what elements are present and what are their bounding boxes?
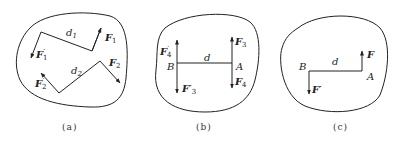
label-A: A: [366, 71, 374, 82]
svg-text:F2′: F2′: [34, 77, 47, 91]
label-d: d: [332, 56, 338, 67]
panel-a: d1 d2 F1 F1′ F2 F2′ (a): [16, 13, 127, 132]
label-B: B: [166, 61, 174, 72]
label-F3-prime: F′: [181, 83, 192, 94]
label-A: A: [235, 61, 243, 72]
svg-text:F2: F2: [108, 57, 121, 70]
svg-text:F4: F4: [234, 76, 247, 89]
svg-text:F1′: F1′: [35, 48, 48, 62]
caption-c: (c): [333, 122, 348, 132]
panel-b: d A B F3 F4 F4′ F′3 (b): [156, 14, 259, 132]
label-F: F: [366, 49, 375, 60]
svg-text:d1: d1: [66, 27, 77, 40]
svg-text:F1: F1: [104, 32, 117, 45]
label-d: d: [204, 52, 210, 63]
caption-b: (b): [196, 122, 212, 132]
svg-text:d2: d2: [71, 65, 82, 78]
label-F-prime: F′: [311, 84, 322, 95]
svg-text:F4′: F4′: [159, 45, 172, 59]
label-B: B: [298, 61, 306, 72]
force-arrow-F1: [92, 28, 101, 51]
panel-c: d A B F F′ (c): [281, 16, 388, 132]
svg-text:F3: F3: [234, 36, 247, 49]
svg-text:F′3: F′3: [181, 83, 196, 96]
caption-a: (a): [62, 122, 77, 132]
